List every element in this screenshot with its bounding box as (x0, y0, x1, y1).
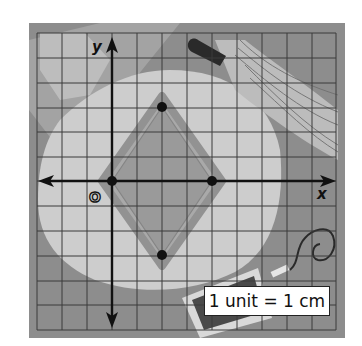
coordinate-grid-figure: y x O 1 unit = 1 cm (0, 0, 362, 346)
origin-label: O (89, 189, 101, 205)
y-axis-label: y (92, 38, 103, 56)
scale-note-text: 1 unit = 1 cm (209, 291, 325, 311)
vertex-point-4-0 (207, 176, 217, 186)
x-axis-label: x (316, 185, 328, 203)
vertex-point-0-0 (107, 176, 117, 186)
vertex-point-2-neg3 (157, 250, 167, 260)
scale-note-box: 1 unit = 1 cm (204, 286, 330, 316)
vertex-point-2-3 (157, 102, 167, 112)
